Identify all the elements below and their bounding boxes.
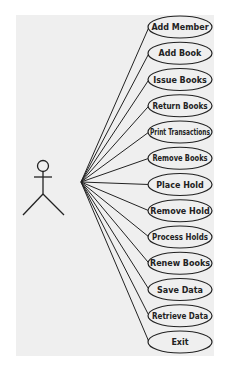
use-case-label: Place Hold bbox=[156, 181, 204, 190]
association-line bbox=[81, 27, 149, 182]
use-case-label: Add Member bbox=[151, 23, 208, 32]
use-case-return-books: Return Books bbox=[148, 95, 212, 117]
use-case-exit: Exit bbox=[148, 331, 212, 353]
use-case-process-holds: Process Holds bbox=[148, 226, 212, 248]
use-case-renew-books: Renew Books bbox=[148, 252, 212, 274]
use-case-label: Remove Books bbox=[152, 154, 207, 163]
association-line bbox=[81, 132, 149, 182]
association-line bbox=[81, 182, 149, 290]
use-case-label: Issue Books bbox=[153, 76, 207, 85]
use-case-label: Renew Books bbox=[150, 259, 210, 268]
use-case-label: Exit bbox=[171, 338, 188, 347]
use-cases: Add MemberAdd BookIssue BooksReturn Book… bbox=[148, 16, 212, 353]
use-case-label: Print Transactions bbox=[150, 128, 210, 137]
association-line bbox=[81, 182, 149, 237]
association-line bbox=[81, 182, 149, 185]
use-case-remove-hold: Remove Hold bbox=[148, 200, 212, 222]
use-case-add-book: Add Book bbox=[148, 42, 212, 64]
association-lines bbox=[81, 27, 149, 342]
use-case-print-transactions: Print Transactions bbox=[148, 121, 212, 143]
use-case-label: Process Holds bbox=[152, 233, 208, 242]
use-case-remove-books: Remove Books bbox=[148, 147, 212, 169]
association-line bbox=[81, 80, 149, 183]
use-case-label: Retrieve Data bbox=[152, 312, 208, 321]
use-case-add-member: Add Member bbox=[148, 16, 212, 38]
use-case-diagram: Add MemberAdd BookIssue BooksReturn Book… bbox=[0, 0, 229, 370]
association-line bbox=[81, 182, 149, 263]
use-case-issue-books: Issue Books bbox=[148, 69, 212, 91]
actor-head-icon bbox=[38, 161, 49, 172]
actor-right-leg bbox=[43, 194, 64, 215]
use-case-place-hold: Place Hold bbox=[148, 174, 212, 196]
use-case-retrieve-data: Retrieve Data bbox=[148, 305, 212, 327]
use-case-save-data: Save Data bbox=[148, 279, 212, 301]
actor bbox=[23, 161, 64, 216]
use-case-label: Save Data bbox=[157, 286, 203, 295]
use-case-label: Remove Hold bbox=[150, 207, 210, 216]
association-line bbox=[81, 182, 149, 316]
use-case-label: Add Book bbox=[159, 49, 203, 58]
use-case-label: Return Books bbox=[152, 102, 207, 111]
actor-left-leg bbox=[23, 194, 43, 215]
